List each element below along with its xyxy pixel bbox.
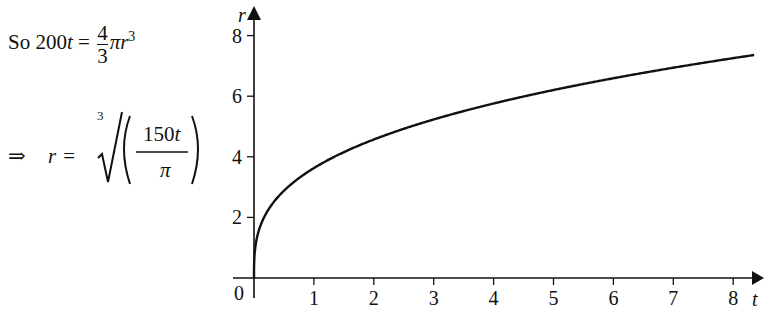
x-tick-label: 6	[608, 287, 618, 309]
y-tick-label: 6	[232, 85, 242, 107]
curve-r-of-t	[254, 55, 754, 278]
x-axis-arrow-icon	[752, 271, 764, 285]
x-tick-label: 7	[668, 287, 678, 309]
x-tick-label: 5	[549, 287, 559, 309]
y-axis-arrow-icon	[247, 6, 261, 20]
origin-label: 0	[234, 282, 244, 304]
x-tick-label: 4	[489, 287, 499, 309]
y-ticks: 2468	[232, 25, 254, 229]
graph-r-vs-t: 12345678 2468 0 t r	[0, 0, 767, 312]
y-tick-label: 4	[232, 146, 242, 168]
y-tick-label: 8	[232, 25, 242, 47]
x-tick-label: 2	[369, 287, 379, 309]
x-ticks: 12345678	[309, 278, 738, 309]
x-tick-label: 1	[309, 287, 319, 309]
x-tick-label: 3	[429, 287, 439, 309]
x-tick-label: 8	[728, 287, 738, 309]
x-axis-label: t	[752, 288, 758, 310]
y-axis-label: r	[238, 4, 246, 26]
y-tick-label: 2	[232, 206, 242, 228]
